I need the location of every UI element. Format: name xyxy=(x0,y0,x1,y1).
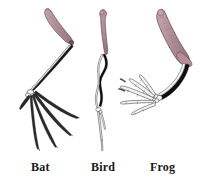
specimen-label-frog: Frog xyxy=(150,160,175,175)
limb-skeleton-illustrations xyxy=(0,0,211,183)
specimen-label-row: Bat Bird Frog xyxy=(0,158,211,180)
bat-elbow-joint xyxy=(69,40,73,44)
comparative-anatomy-figure: Bat Bird Frog xyxy=(0,0,211,183)
specimen-label-bird: Bird xyxy=(91,160,115,175)
specimen-label-bat: Bat xyxy=(31,160,50,175)
